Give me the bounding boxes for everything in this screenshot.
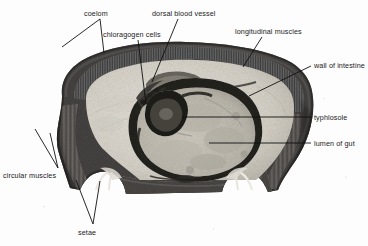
specimen-micrograph — [0, 0, 368, 246]
label-circular-muscles: circular muscles — [3, 172, 56, 180]
label-setae: setae — [78, 229, 96, 237]
earthworm-cross-section-figure: coelom chloragogen cells dorsal blood ve… — [0, 0, 368, 246]
label-longitudinal-muscles: longitudinal muscles — [235, 28, 302, 36]
label-coelom: coelom — [84, 10, 108, 18]
label-lumen-of-gut: lumen of gut — [314, 140, 355, 148]
label-wall-of-intestine: wall of intestine — [314, 62, 365, 70]
label-dorsal-blood-vessel: dorsal blood vessel — [152, 10, 215, 18]
label-chloragogen-cells: chloragogen cells — [103, 31, 161, 39]
label-typhlosole: typhlosole — [314, 114, 347, 122]
